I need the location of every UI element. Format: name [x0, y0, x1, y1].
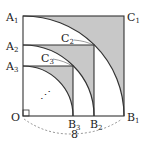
label-a3: A3 [5, 60, 18, 74]
right-angle-marker [23, 110, 29, 116]
label-c3: C3 [41, 52, 54, 66]
continuation-dots: ⋰ [40, 89, 51, 102]
label-o: O [11, 111, 20, 124]
label-a2: A2 [5, 40, 18, 54]
geometry-diagram: ⋰ A1 A2 A3 C1 C2 C3 O B3 B2 B1 8 [0, 0, 147, 144]
label-c2: C2 [61, 32, 74, 46]
label-c1: C1 [127, 11, 140, 25]
label-b1: B1 [127, 111, 140, 125]
label-b2: B2 [90, 118, 103, 132]
label-a1: A1 [5, 11, 18, 25]
length-label: 8 [71, 128, 78, 141]
